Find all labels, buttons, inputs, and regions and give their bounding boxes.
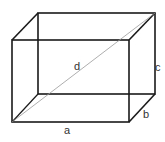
space-diagonal [12,13,155,122]
label-b: b [143,109,149,120]
back-face [38,13,155,94]
front-face [12,40,129,122]
edge-bottom-left [12,94,38,122]
edge-bottom-right [129,94,155,122]
label-d: d [74,61,80,72]
label-c: c [155,62,161,73]
edge-top-right [129,13,155,40]
label-a: a [64,125,70,136]
edge-top-left [12,13,38,40]
prism-diagram [0,0,165,142]
